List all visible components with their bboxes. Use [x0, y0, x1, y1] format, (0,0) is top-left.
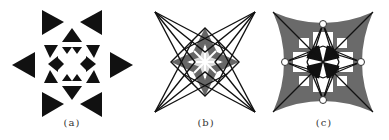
figure-a-label: (a) — [52, 117, 92, 128]
figure-c-label: (c) — [304, 117, 344, 128]
figure-b-label: (b) — [186, 117, 226, 128]
figure-a-star-triangles — [12, 10, 133, 117]
figure-b-line-star — [155, 12, 255, 112]
figure-c-curved-star — [273, 12, 373, 112]
